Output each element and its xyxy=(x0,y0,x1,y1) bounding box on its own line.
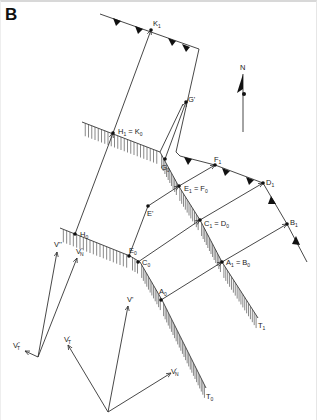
velocity-vectors-t1 xyxy=(68,306,171,412)
thrust-barb xyxy=(113,18,121,26)
label-g0: G0 xyxy=(161,163,170,173)
label-f1: F1 xyxy=(214,155,222,165)
label-b1: B1 xyxy=(290,218,298,228)
point-c1 xyxy=(198,218,202,222)
label-e1-f0: E1 = F0 xyxy=(184,184,208,194)
thrust-barb xyxy=(184,157,192,165)
fault-trace-t1 xyxy=(82,122,258,328)
point-g0 xyxy=(163,157,167,161)
label-e0: E0 xyxy=(129,246,137,256)
point-a0 xyxy=(159,298,163,302)
label-k1: K1 xyxy=(153,19,161,29)
point-h1 xyxy=(111,131,115,135)
label-v-n-dprime: V''N xyxy=(76,247,84,257)
label-v-t-prime: V'T xyxy=(64,335,71,345)
label-t1: T1 xyxy=(258,321,266,331)
label-c0: C0 xyxy=(142,258,150,268)
north-arrow-head-icon xyxy=(237,74,243,93)
thrust-barb xyxy=(292,236,300,245)
label-v-dprime: V'' xyxy=(54,240,62,249)
point-b1 xyxy=(285,222,289,226)
label-v-prime: V' xyxy=(127,295,134,304)
point-k1 xyxy=(149,28,153,32)
north-label: N xyxy=(240,63,245,72)
north-arrow xyxy=(237,74,246,132)
label-v-t-dprime: V''T xyxy=(13,341,20,351)
displacement-diagram: K1 H1 = K0 G' G0 F1 E1 = F0 D1 E' C1 = D… xyxy=(0,0,317,420)
hatching-t1 xyxy=(85,123,256,328)
thrust-barb xyxy=(135,26,143,34)
label-h1-k0: H1 = K0 xyxy=(118,127,143,137)
label-v-n-prime: V'N xyxy=(171,367,179,377)
label-h0: H0 xyxy=(80,230,88,240)
label-a0: A0 xyxy=(159,287,167,297)
point-d1 xyxy=(261,181,265,185)
points xyxy=(73,28,289,302)
label-d1: D1 xyxy=(266,178,274,188)
thrust-barb xyxy=(268,196,276,204)
point-a1 xyxy=(220,260,224,264)
label-e-prime: E' xyxy=(147,209,154,218)
label-t0: T0 xyxy=(206,392,214,402)
label-c1-d0: C1 = D0 xyxy=(204,219,229,229)
label-g-prime: G' xyxy=(188,95,196,104)
point-e1 xyxy=(177,184,181,188)
label-a1-b0: A1 = B0 xyxy=(226,258,250,268)
point-c0 xyxy=(136,260,140,264)
point-h0 xyxy=(73,232,77,236)
point-e-prime xyxy=(146,204,150,208)
